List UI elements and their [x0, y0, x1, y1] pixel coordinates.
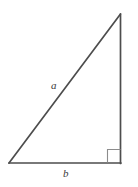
hypotenuse-label: a [51, 80, 57, 91]
figure-background [0, 0, 138, 187]
base-label: b [63, 168, 69, 179]
right-triangle-figure: a b [0, 0, 138, 187]
triangle-drawing [0, 0, 138, 187]
